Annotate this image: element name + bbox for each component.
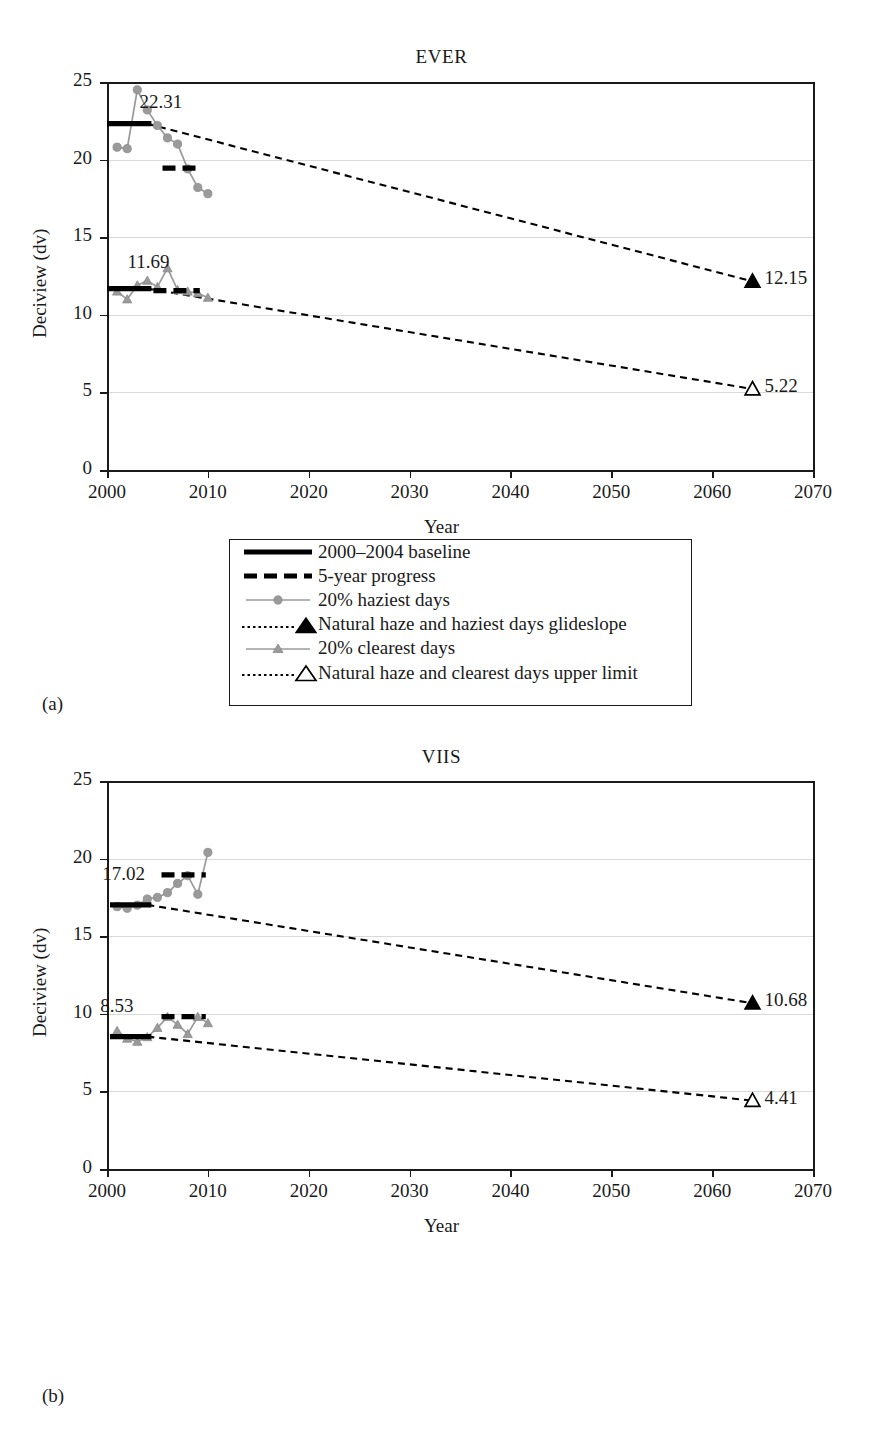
figure-panel-a: EVER (a) 0510152025200020102020203020402…	[0, 0, 883, 730]
endpoint-value-3: 4.41	[765, 1087, 798, 1109]
legend-key-open-triangle-icon	[240, 662, 318, 684]
legend-key-filled-triangle-icon	[240, 614, 318, 636]
series-layer-b	[0, 707, 883, 1259]
legend-item-3: Natural haze and haziest days glideslope	[230, 613, 691, 637]
series-layer-a	[0, 0, 883, 560]
legend-key-dashed-line-icon	[240, 565, 318, 587]
endpoint-value-2: 12.15	[765, 267, 808, 289]
legend-item-1: 5-year progress	[230, 564, 691, 588]
baseline-value-1: 8.53	[100, 995, 133, 1017]
legend-key-0	[240, 541, 318, 563]
endpoint-value-3: 5.22	[765, 375, 798, 397]
legend-label-1: 5-year progress	[318, 566, 436, 587]
legend-key-triangle-marker-icon	[240, 638, 318, 660]
legend-item-5: Natural haze and clearest days upper lim…	[230, 661, 691, 685]
figure-panel-b: VIIS (b) 0510152025200020102020203020402…	[0, 707, 883, 1437]
legend-key-circle-marker-icon	[240, 589, 318, 611]
legend-label-0: 2000–2004 baseline	[318, 542, 471, 563]
legend-key-solid-line-icon	[240, 541, 318, 563]
legend-label-4: 20% clearest days	[318, 638, 455, 659]
legend-key-5	[240, 662, 318, 684]
legend-item-0: 2000–2004 baseline	[230, 540, 691, 564]
legend-key-2	[240, 589, 318, 611]
legend-label-5: Natural haze and clearest days upper lim…	[318, 663, 638, 684]
plot-area-a: 0510152025200020102020203020402050206020…	[0, 0, 883, 560]
baseline-value-0: 17.02	[102, 863, 145, 885]
baseline-value-1: 11.69	[127, 251, 169, 273]
legend-a: 2000–2004 baseline 5-year progress 20% h…	[229, 539, 692, 706]
legend-item-2: 20% haziest days	[230, 588, 691, 612]
legend-key-3	[240, 614, 318, 636]
panel-label-b: (b)	[42, 1385, 64, 1407]
legend-label-2: 20% haziest days	[318, 590, 450, 611]
plot-area-b: 0510152025200020102020203020402050206020…	[0, 707, 883, 1259]
legend-key-1	[240, 565, 318, 587]
legend-label-3: Natural haze and haziest days glideslope	[318, 614, 627, 635]
legend-key-4	[240, 638, 318, 660]
baseline-value-0: 22.31	[140, 91, 183, 113]
legend-item-4: 20% clearest days	[230, 637, 691, 661]
endpoint-value-2: 10.68	[765, 989, 808, 1011]
